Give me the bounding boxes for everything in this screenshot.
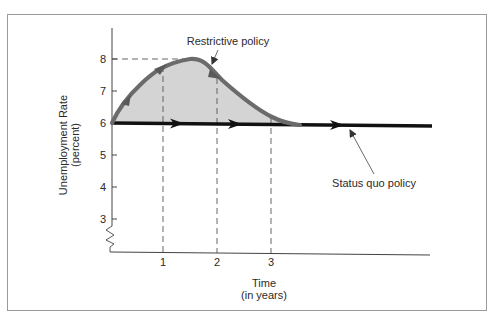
- restrictive-pointer: [212, 50, 218, 64]
- status-quo-pointer: [350, 130, 374, 174]
- y-ticks: [112, 59, 117, 219]
- chart: 8 7 6 5 4 3 1 2 3 Time (in years) Unempl…: [0, 0, 498, 324]
- y-axis-break: [106, 226, 114, 252]
- x-tick-1: 1: [160, 256, 166, 268]
- x-tick-2: 2: [214, 256, 220, 268]
- status-quo-policy-label: Status quo policy: [332, 177, 416, 189]
- y-axis-subtitle: (percent): [69, 123, 81, 167]
- status-quo-line: [112, 123, 432, 126]
- y-tick-7: 7: [100, 85, 106, 97]
- y-tick-6: 6: [100, 117, 106, 129]
- y-tick-5: 5: [100, 149, 106, 161]
- y-axis-title: Unemployment Rate: [57, 95, 69, 195]
- y-tick-8: 8: [100, 53, 106, 65]
- x-axis-subtitle: (in years): [241, 289, 287, 301]
- y-tick-3: 3: [100, 213, 106, 225]
- restrictive-policy-label: Restrictive policy: [187, 35, 270, 47]
- x-axis-title: Time: [252, 277, 276, 289]
- x-axis: [110, 252, 430, 255]
- y-tick-4: 4: [100, 181, 106, 193]
- x-tick-3: 3: [268, 256, 274, 268]
